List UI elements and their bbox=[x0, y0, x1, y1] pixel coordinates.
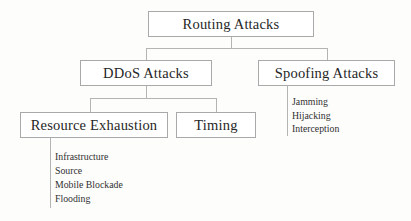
connector-spoofing-to-leaves bbox=[287, 86, 288, 136]
connector-root-stem bbox=[231, 37, 232, 48]
list-item: Infrastructure bbox=[55, 150, 123, 164]
node-routing-attacks-label: Routing Attacks bbox=[183, 17, 280, 32]
spoofing-attacks-leaf-list: Jamming Hijacking Interception bbox=[292, 95, 339, 136]
connector-ddos-to-timing bbox=[216, 98, 217, 112]
connector-root-bar bbox=[146, 48, 328, 49]
list-item: Hijacking bbox=[292, 109, 339, 123]
list-item: Source bbox=[55, 164, 123, 178]
connector-root-to-spoofing bbox=[327, 48, 328, 60]
connector-root-to-ddos bbox=[146, 48, 147, 60]
list-item: Mobile Blockade bbox=[55, 178, 123, 192]
node-resource-exhaustion-label: Resource Exhaustion bbox=[31, 118, 158, 133]
connector-ddos-bar bbox=[90, 98, 217, 99]
connector-ddos-stem bbox=[146, 86, 147, 98]
node-routing-attacks[interactable]: Routing Attacks bbox=[148, 11, 314, 37]
resource-exhaustion-leaf-list: Infrastructure Source Mobile Blockade Fl… bbox=[55, 150, 123, 206]
node-ddos-attacks[interactable]: DDoS Attacks bbox=[80, 60, 212, 86]
node-spoofing-attacks-label: Spoofing Attacks bbox=[275, 66, 379, 81]
list-item: Interception bbox=[292, 122, 339, 136]
connector-ddos-to-resource bbox=[90, 98, 91, 112]
node-resource-exhaustion[interactable]: Resource Exhaustion bbox=[20, 112, 168, 138]
routing-attacks-diagram: Routing Attacks DDoS Attacks Spoofing At… bbox=[0, 0, 411, 221]
connector-resource-to-leaves bbox=[50, 138, 51, 208]
node-timing-label: Timing bbox=[194, 118, 237, 133]
node-spoofing-attacks[interactable]: Spoofing Attacks bbox=[258, 60, 395, 86]
list-item: Flooding bbox=[55, 192, 123, 206]
list-item: Jamming bbox=[292, 95, 339, 109]
node-ddos-attacks-label: DDoS Attacks bbox=[103, 66, 189, 81]
node-timing[interactable]: Timing bbox=[176, 112, 256, 138]
